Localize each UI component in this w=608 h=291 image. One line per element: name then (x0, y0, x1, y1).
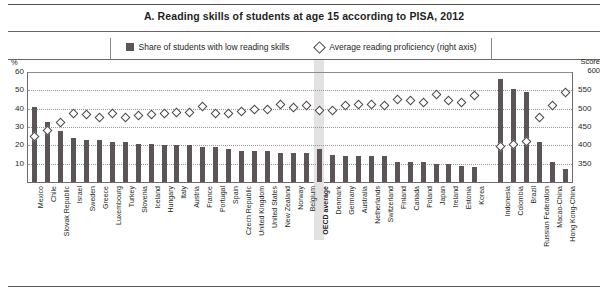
bar (343, 156, 348, 182)
bar (291, 153, 296, 182)
bar (71, 138, 76, 182)
category-label: Turkey (128, 186, 135, 207)
bar (213, 147, 218, 182)
marker-diamond (198, 102, 208, 112)
category-label: Spain (232, 186, 239, 204)
category-label: Belgium (309, 186, 316, 211)
category-label: Macao-China (556, 186, 563, 228)
category-label: Austria (193, 186, 200, 208)
marker-diamond (289, 102, 299, 112)
marker-diamond (68, 109, 78, 119)
chart-legend: Share of students with low reading skill… (112, 38, 490, 56)
bar (472, 167, 477, 182)
marker-diamond (457, 98, 467, 108)
category-label: Slovenia (141, 186, 148, 213)
bar (226, 149, 231, 182)
category-label: Estonia (465, 186, 472, 209)
legend-divider-right (491, 38, 492, 60)
category-label: Sweden (89, 186, 96, 211)
marker-diamond (250, 104, 260, 114)
category-label: Poland (426, 186, 433, 208)
bar (317, 149, 322, 182)
category-label: Switzerland (387, 186, 394, 222)
bar (110, 142, 115, 182)
category-label: OECD average (322, 186, 329, 235)
marker-diamond (444, 95, 454, 105)
category-label: Netherlands (374, 186, 381, 224)
category-label: Canada (413, 186, 420, 211)
right-axis-tick-label: 500 (578, 105, 602, 113)
bar (187, 145, 192, 182)
category-label: Italy (180, 186, 187, 199)
bar (408, 162, 413, 182)
bar (511, 89, 516, 183)
bar (278, 153, 283, 182)
category-label: Greece (102, 186, 109, 209)
legend-bar-swatch-icon (126, 43, 134, 51)
legend-diamond-marker-icon (313, 41, 326, 54)
category-label: Norway (297, 186, 304, 210)
bar (356, 156, 361, 182)
gridline (28, 72, 572, 73)
category-label: United States (271, 186, 278, 228)
category-label: Finland (400, 186, 407, 209)
category-label: Mexico (37, 186, 44, 208)
category-label: Brazil (530, 186, 537, 204)
plot-area (28, 72, 572, 182)
category-label: Hungary (167, 186, 174, 212)
marker-diamond (120, 113, 130, 123)
category-label: Japan (439, 186, 446, 205)
bar (330, 155, 335, 183)
legend-underline-rule (8, 59, 600, 60)
bar (136, 144, 141, 183)
marker-diamond (55, 117, 65, 127)
left-axis-tick-label: 20 (8, 141, 24, 149)
category-label: Australia (361, 186, 368, 213)
right-axis-tick-label: 400 (578, 141, 602, 149)
category-label: Korea (478, 186, 485, 205)
left-axis-tick-label: 50 (8, 86, 24, 94)
marker-diamond (561, 87, 571, 97)
bar (162, 145, 167, 182)
bar (265, 151, 270, 182)
bar (304, 153, 309, 182)
chart-figure: A. Reading skills of students at age 15 … (0, 0, 608, 291)
category-label: Luxembourg (115, 186, 122, 225)
bar (252, 151, 257, 182)
marker-diamond (405, 95, 415, 105)
gridline (28, 90, 572, 91)
bar (84, 140, 89, 182)
category-label: Slovak Republic (63, 186, 70, 236)
marker-diamond (146, 110, 156, 120)
marker-diamond (314, 105, 324, 115)
marker-diamond (535, 113, 545, 123)
gridline (28, 127, 572, 128)
category-label: Germany (348, 186, 355, 215)
bar (537, 142, 542, 182)
left-axis-tick-label: 10 (8, 160, 24, 168)
legend-divider-left (110, 38, 111, 60)
right-axis-tick-label: 450 (578, 123, 602, 131)
marker-diamond (94, 112, 104, 122)
category-label: Portugal (219, 186, 226, 212)
left-axis-tick-label: 30 (8, 123, 24, 131)
bar (446, 164, 451, 182)
legend-item-markers: Average reading proficiency (right axis) (315, 42, 476, 52)
left-axis-tick-label: 60 (8, 68, 24, 76)
category-label: Chile (50, 186, 57, 202)
right-axis-tick-label: 350 (578, 160, 602, 168)
marker-diamond (327, 105, 337, 115)
category-label: Colombia (517, 186, 524, 216)
marker-diamond (263, 104, 273, 114)
category-label: Ireland (452, 186, 459, 207)
legend-bars-label: Share of students with low reading skill… (139, 42, 290, 52)
category-label: Indonesia (504, 186, 511, 216)
bar (32, 107, 37, 182)
bar (200, 147, 205, 182)
category-label: Denmark (335, 186, 342, 214)
marker-diamond (133, 111, 143, 121)
right-axis-tick-label: 550 (578, 86, 602, 94)
legend-item-bars: Share of students with low reading skill… (126, 42, 290, 52)
category-label: Hong Kong-China (569, 186, 576, 242)
bar (459, 166, 464, 183)
